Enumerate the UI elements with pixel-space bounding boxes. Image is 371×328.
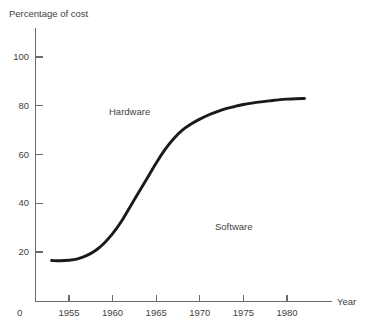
- x-axis-ticks: [69, 295, 287, 302]
- x-axis-tick-label: 1975: [231, 308, 255, 318]
- x-axis-tick-label: 1955: [57, 308, 81, 318]
- y-axis-tick-label: 60: [3, 150, 29, 160]
- origin-tick-label: 0: [17, 308, 22, 318]
- chart-plot-area: [0, 0, 371, 328]
- y-axis-tick-label: 20: [3, 247, 29, 257]
- axes-group: [35, 28, 332, 302]
- x-axis-title: Year: [337, 297, 356, 307]
- y-axis-tick-label: 40: [3, 198, 29, 208]
- y-axis-tick-label: 100: [3, 52, 29, 62]
- y-axis-ticks: [36, 57, 43, 252]
- x-axis-tick-label: 1980: [275, 308, 299, 318]
- y-axis-title: Percentage of cost: [9, 9, 88, 19]
- x-axis-tick-label: 1965: [144, 308, 168, 318]
- y-axis-tick-label: 80: [3, 101, 29, 111]
- chart-container: Percentage of cost Year 0 Hardware Softw…: [0, 0, 371, 328]
- hardware-cost-curve: [52, 98, 305, 260]
- hardware-region-label: Hardware: [109, 107, 150, 117]
- software-region-label: Software: [215, 222, 253, 232]
- x-axis-tick-label: 1960: [101, 308, 125, 318]
- x-axis-tick-label: 1970: [188, 308, 212, 318]
